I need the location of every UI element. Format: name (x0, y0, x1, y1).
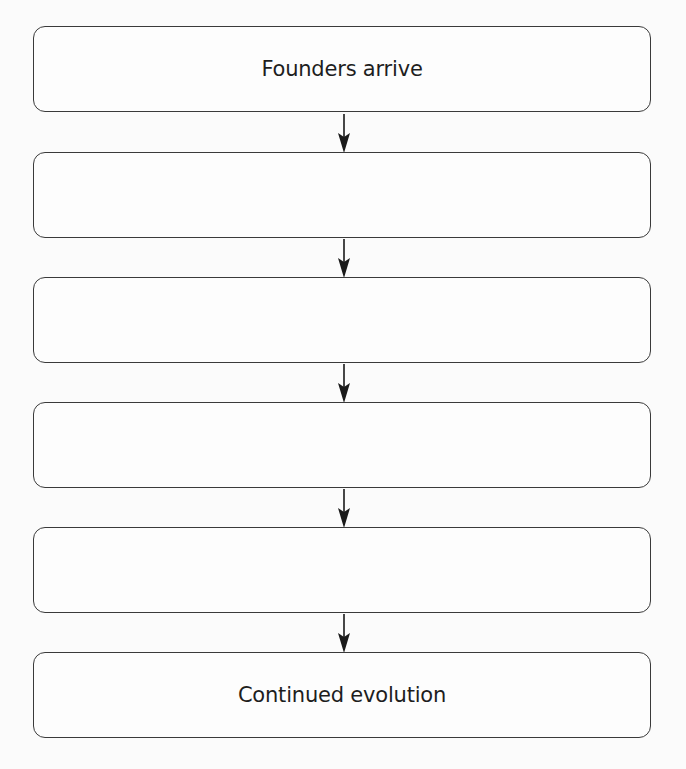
flow-step-label: Continued evolution (238, 683, 446, 707)
arrow-down-icon (336, 614, 352, 653)
flow-step-5 (33, 527, 651, 613)
arrow-down-icon (336, 239, 352, 278)
flow-step-4 (33, 402, 651, 488)
arrow-down-icon (336, 114, 352, 153)
flowchart: Founders arrive (0, 0, 686, 769)
flow-step-label: Founders arrive (261, 57, 422, 81)
arrow-down-icon (336, 364, 352, 403)
arrow-down-icon (336, 489, 352, 528)
flow-step-1: Founders arrive (33, 26, 651, 112)
flow-step-2 (33, 152, 651, 238)
flow-step-3 (33, 277, 651, 363)
flow-step-6: Continued evolution (33, 652, 651, 738)
